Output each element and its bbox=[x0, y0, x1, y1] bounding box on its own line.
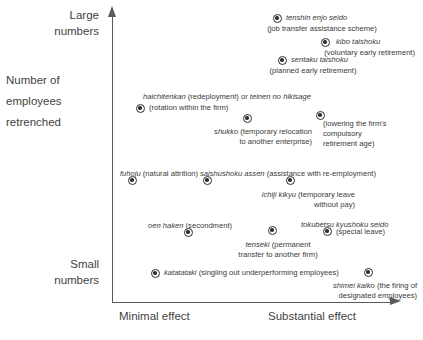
y-axis-top-label: Large numbers bbox=[27, 7, 99, 39]
data-label-tenshin-enjo-seido: tenshin enjo seido bbox=[286, 13, 406, 23]
term-tenseki: tenseki bbox=[245, 240, 269, 249]
term-shimei-kaiko: shimei kaiko bbox=[333, 281, 375, 290]
data-gloss-sentaku-taishoku: (planned early retirement) bbox=[243, 66, 383, 76]
data-point-oen-haken[interactable] bbox=[184, 228, 193, 237]
term-teinen-no-hikisage: teinen no hikisage bbox=[250, 92, 311, 101]
term-oen-haken: oen haken bbox=[148, 221, 183, 230]
gloss-ichiji-kikyu-part1: (temporary leave bbox=[296, 190, 355, 199]
data-label-katatataki: katatataki (singling out underperforming… bbox=[164, 268, 394, 278]
data-point-haichitenkan[interactable] bbox=[136, 104, 145, 113]
data-gloss-ichiji-kikyu-line2: without pay) bbox=[210, 200, 355, 210]
x-axis-right-label: Substantial effect bbox=[268, 308, 392, 324]
data-point-kibo-taishoku[interactable] bbox=[321, 38, 330, 47]
retrenchment-scatter-chart: Large numbers Small numbers Number of em… bbox=[0, 0, 423, 340]
data-label-sentaku-taishoku: sentaku taishoku bbox=[291, 55, 391, 65]
data-label-shukko: shukko (temporary relocation bbox=[155, 127, 312, 137]
data-gloss-haichitenkan: (rotation within the firm) bbox=[149, 103, 299, 113]
y-axis-bottom-label: Small numbers bbox=[27, 256, 99, 288]
data-label-kibo-taishoku: kibo taishoku bbox=[336, 37, 423, 47]
y-axis-arrowhead-icon bbox=[108, 6, 116, 17]
gloss-fuhoju: (natural attrition) bbox=[141, 169, 198, 178]
term-katatataki: katatataki bbox=[164, 268, 197, 277]
x-axis-left-label: Minimal effect bbox=[119, 308, 190, 324]
term-ichiji-kikyu: ichiji kikyu bbox=[262, 190, 296, 199]
gloss-shimei-kaiko-part1: (the firing of bbox=[375, 281, 417, 290]
data-label-tenseki: tenseki (permanent bbox=[223, 240, 333, 250]
data-point-sentaku-taishoku[interactable] bbox=[278, 56, 287, 65]
gloss-katatataki: (singling out underperforming employees) bbox=[197, 268, 339, 277]
data-gloss-teinen-hikisage-line2: compulsory bbox=[323, 129, 421, 139]
data-label-ichiji-kikyu: ichiji kikyu (temporary leave bbox=[210, 190, 355, 200]
data-point-tokubetsu-kyushoku-seido[interactable] bbox=[323, 227, 332, 236]
data-point-fuhoju[interactable] bbox=[128, 176, 137, 185]
data-point-katatataki[interactable] bbox=[151, 269, 160, 278]
data-label-shimei-kaiko: shimei kaiko (the firing of bbox=[285, 281, 417, 291]
gloss-tenseki-part1: (permanent bbox=[270, 240, 311, 249]
y-axis-line bbox=[112, 15, 113, 303]
data-gloss-shimei-kaiko-line2: designated employees) bbox=[285, 291, 417, 301]
data-gloss-tenshin-enjo-seido: (job transfer assistance scheme) bbox=[242, 24, 402, 34]
data-gloss-shukko-line2: to another enterprise) bbox=[155, 137, 312, 147]
term-tenshin-enjo-seido: tenshin enjo seido bbox=[286, 13, 347, 22]
gloss-haichitenkan-mid: (redeployment) or bbox=[186, 92, 250, 101]
gloss-saishushoku-assen: (assistance with re-employment) bbox=[265, 169, 376, 178]
term-sentaku-taishoku: sentaku taishoku bbox=[291, 55, 348, 64]
x-axis-line bbox=[112, 302, 392, 303]
y-axis-title: Number of employees retrenched bbox=[6, 70, 102, 133]
data-point-tenshin-enjo-seido[interactable] bbox=[273, 14, 282, 23]
data-gloss-teinen-hikisage-line1: (lowering the firm's bbox=[323, 119, 421, 129]
data-label-haichitenkan: haichitenkan (redeployment) or teinen no… bbox=[143, 92, 373, 102]
data-label-oen-haken: oen haken (secondment) bbox=[148, 221, 273, 231]
data-label-saishushoku-assen: saishushoku assen (assistance with re-em… bbox=[200, 169, 415, 179]
data-point-ichiji-kikyu[interactable] bbox=[286, 176, 295, 185]
data-gloss-tenseki-line2: transfer to another firm) bbox=[223, 250, 333, 260]
term-shukko: shukko bbox=[214, 127, 238, 136]
term-haichitenkan: haichitenkan bbox=[143, 92, 186, 101]
data-point-shimei-kaiko[interactable] bbox=[364, 268, 373, 277]
data-gloss-tokubetsu-kyushoku-seido: (special leave) bbox=[336, 227, 421, 237]
gloss-shukko-part1: (temporary relocation bbox=[238, 127, 312, 136]
data-point-tenseki[interactable] bbox=[268, 226, 277, 235]
data-gloss-teinen-hikisage-line3: retirement age) bbox=[323, 139, 421, 149]
data-point-shukko[interactable] bbox=[243, 114, 252, 123]
term-kibo-taishoku: kibo taishoku bbox=[336, 37, 380, 46]
data-point-saishushoku-assen[interactable] bbox=[203, 176, 212, 185]
